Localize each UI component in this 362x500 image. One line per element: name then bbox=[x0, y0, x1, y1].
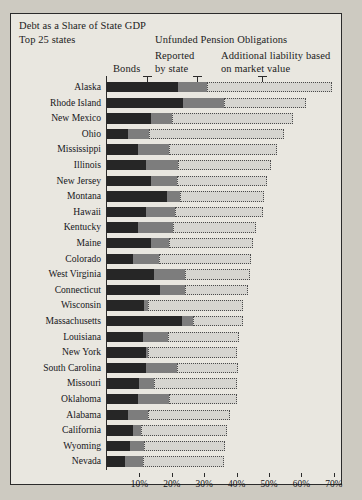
bar-segment-bonds bbox=[107, 410, 128, 420]
stacked-bar bbox=[107, 316, 243, 326]
x-axis-tick-label: 70% bbox=[325, 479, 342, 489]
category-label: Louisiana bbox=[11, 330, 101, 344]
bar-segment-bonds bbox=[107, 98, 183, 108]
bar-row: Ohio bbox=[11, 127, 343, 141]
bar-row: California bbox=[11, 423, 343, 437]
category-label: Colorado bbox=[11, 252, 101, 266]
bar-row: Alaska bbox=[11, 80, 343, 94]
category-label: Hawaii bbox=[11, 205, 101, 219]
stacked-bar bbox=[107, 363, 238, 373]
bar-row: Montana bbox=[11, 189, 343, 203]
x-axis-tick bbox=[172, 473, 173, 477]
category-label: Maine bbox=[11, 236, 101, 250]
x-axis-tick-label: 60% bbox=[293, 479, 310, 489]
bar-row: New York bbox=[11, 345, 343, 359]
category-label: New York bbox=[11, 345, 101, 359]
bar-segment-bonds bbox=[107, 269, 154, 279]
bar-segment-market bbox=[193, 316, 244, 326]
category-label: Wyoming bbox=[11, 439, 101, 453]
category-label: Montana bbox=[11, 189, 101, 203]
bar-segment-market bbox=[148, 300, 243, 310]
bar-row: Massachusetts bbox=[11, 314, 343, 328]
chart-frame: Debt as a Share of State GDP Top 25 stat… bbox=[10, 13, 342, 485]
bar-segment-bonds bbox=[107, 332, 143, 342]
bar-row: Wisconsin bbox=[11, 298, 343, 312]
chart-page: Debt as a Share of State GDP Top 25 stat… bbox=[0, 0, 362, 500]
stacked-bar bbox=[107, 191, 264, 201]
stacked-bar bbox=[107, 129, 284, 139]
bar-segment-bonds bbox=[107, 207, 146, 217]
bar-segment-market bbox=[148, 410, 230, 420]
stacked-bar bbox=[107, 300, 243, 310]
stacked-bar bbox=[107, 82, 332, 92]
category-label: Connecticut bbox=[11, 283, 101, 297]
bar-segment-reported bbox=[125, 456, 143, 466]
bar-segment-market bbox=[175, 207, 262, 217]
bar-segment-bonds bbox=[107, 378, 139, 388]
bar-segment-bonds bbox=[107, 441, 130, 451]
bar-segment-bonds bbox=[107, 316, 182, 326]
bar-segment-reported bbox=[146, 160, 178, 170]
stacked-bar bbox=[107, 269, 250, 279]
bar-segment-bonds bbox=[107, 238, 151, 248]
bar-segment-reported bbox=[130, 441, 145, 451]
bar-row: Maine bbox=[11, 236, 343, 250]
bar-segment-bonds bbox=[107, 191, 167, 201]
category-label: Oklahoma bbox=[11, 392, 101, 406]
category-label: Rhode Island bbox=[11, 96, 101, 110]
bar-segment-reported bbox=[182, 316, 193, 326]
plot-area: AlaskaRhode IslandNew MexicoOhioMississi… bbox=[11, 14, 343, 486]
bar-segment-reported bbox=[178, 82, 207, 92]
category-label: Missouri bbox=[11, 376, 101, 390]
bar-segment-bonds bbox=[107, 82, 178, 92]
category-label: Alaska bbox=[11, 80, 101, 94]
bar-segment-bonds bbox=[107, 222, 138, 232]
stacked-bar bbox=[107, 222, 256, 232]
x-axis-tick-label: 40% bbox=[228, 479, 245, 489]
x-axis-tick bbox=[334, 473, 335, 477]
stacked-bar bbox=[107, 207, 263, 217]
bar-segment-market bbox=[169, 394, 237, 404]
bar-segment-reported bbox=[154, 269, 185, 279]
bar-segment-reported bbox=[133, 254, 159, 264]
bar-row: Colorado bbox=[11, 252, 343, 266]
x-axis-tick bbox=[139, 473, 140, 477]
bar-segment-bonds bbox=[107, 144, 138, 154]
category-label: California bbox=[11, 423, 101, 437]
stacked-bar bbox=[107, 394, 237, 404]
category-label: South Carolina bbox=[11, 361, 101, 375]
stacked-bar bbox=[107, 332, 239, 342]
bar-row: Rhode Island bbox=[11, 96, 343, 110]
bar-segment-bonds bbox=[107, 176, 151, 186]
bar-segment-market bbox=[177, 176, 268, 186]
bar-segment-market bbox=[172, 113, 294, 123]
bar-segment-bonds bbox=[107, 425, 133, 435]
bar-segment-reported bbox=[139, 378, 154, 388]
x-axis-tick bbox=[237, 473, 238, 477]
stacked-bar bbox=[107, 98, 306, 108]
bar-row: Illinois bbox=[11, 158, 343, 172]
bar-segment-market bbox=[143, 456, 224, 466]
bar-row: Oklahoma bbox=[11, 392, 343, 406]
stacked-bar bbox=[107, 285, 248, 295]
bar-segment-bonds bbox=[107, 394, 138, 404]
bar-segment-reported bbox=[143, 332, 168, 342]
bar-segment-market bbox=[149, 129, 283, 139]
bar-segment-bonds bbox=[107, 113, 151, 123]
bar-row: Wyoming bbox=[11, 439, 343, 453]
bar-segment-market bbox=[169, 238, 253, 248]
x-axis-tick-label: 50% bbox=[260, 479, 277, 489]
stacked-bar bbox=[107, 441, 225, 451]
bar-row: West Virginia bbox=[11, 267, 343, 281]
bar-segment-market bbox=[141, 425, 227, 435]
bar-segment-bonds bbox=[107, 456, 125, 466]
x-axis-tick-label: 10% bbox=[131, 479, 148, 489]
stacked-bar bbox=[107, 160, 271, 170]
category-label: Wisconsin bbox=[11, 298, 101, 312]
bar-segment-market bbox=[185, 285, 248, 295]
category-label: New Jersey bbox=[11, 174, 101, 188]
bar-segment-reported bbox=[167, 191, 180, 201]
x-axis-tick bbox=[301, 473, 302, 477]
x-axis-tick-label: 30% bbox=[196, 479, 213, 489]
bar-segment-market bbox=[185, 269, 250, 279]
